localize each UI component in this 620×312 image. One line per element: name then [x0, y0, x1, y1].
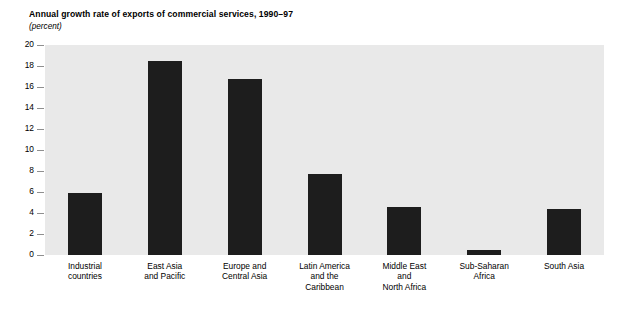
- chart-subtitle: (percent): [29, 21, 549, 32]
- y-axis-tick-mark: [37, 45, 44, 46]
- y-axis-tick-mark: [37, 171, 44, 172]
- x-axis-category-label: South Asia: [516, 261, 612, 271]
- y-axis-tick-label: 4: [29, 207, 34, 218]
- bars-layer: [45, 45, 604, 255]
- bar: [308, 174, 342, 255]
- y-axis-tick-label: 10: [25, 144, 34, 155]
- y-axis-tick-mark: [37, 192, 44, 193]
- y-axis-tick-label: 12: [25, 123, 34, 134]
- y-axis-tick-mark: [37, 150, 44, 151]
- y-axis-tick-label: 8: [29, 165, 34, 176]
- y-axis-tick-label: 6: [29, 186, 34, 197]
- x-axis: Industrial countriesEast Asia and Pacifi…: [45, 261, 604, 311]
- y-axis-tick-mark: [37, 234, 44, 235]
- y-axis-tick-mark: [37, 255, 44, 256]
- bar: [68, 193, 102, 255]
- y-axis-tick-mark: [37, 66, 44, 67]
- bar: [547, 209, 581, 255]
- chart-header: Annual growth rate of exports of commerc…: [29, 9, 549, 32]
- y-axis-tick-label: 16: [25, 81, 34, 92]
- y-axis-tick-mark: [37, 129, 44, 130]
- page-title: Annual growth rate of exports of commerc…: [29, 9, 549, 20]
- plot-area: [45, 45, 604, 255]
- y-axis-tick-label: 20: [25, 39, 34, 50]
- bar: [387, 207, 421, 255]
- bar: [148, 61, 182, 255]
- bar: [467, 250, 501, 255]
- y-axis-tick-label: 2: [29, 228, 34, 239]
- chart-figure: Annual growth rate of exports of commerc…: [0, 0, 620, 312]
- bar: [228, 79, 262, 255]
- y-axis-tick-mark: [37, 213, 44, 214]
- y-axis-tick-label: 14: [25, 102, 34, 113]
- y-axis-tick-mark: [37, 87, 44, 88]
- y-axis-tick-label: 0: [29, 249, 34, 260]
- y-axis-tick-label: 18: [25, 60, 34, 71]
- y-axis-tick-mark: [37, 108, 44, 109]
- y-axis: 20181614121086420: [0, 45, 45, 255]
